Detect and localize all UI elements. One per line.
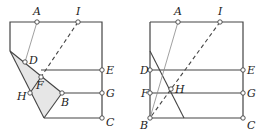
- point-e-marker: [100, 68, 104, 72]
- point-g-label: G: [247, 87, 256, 100]
- point-b-label: B: [139, 119, 148, 132]
- point-e-label: E: [105, 64, 114, 77]
- point-i-marker: [218, 20, 222, 24]
- point-a-label: A: [32, 5, 41, 18]
- point-h-label: H: [16, 90, 27, 103]
- point-a-label: A: [173, 5, 182, 18]
- point-c-label: C: [106, 116, 115, 129]
- point-g-marker: [100, 91, 104, 95]
- point-b-marker: [148, 116, 152, 120]
- point-b-label: B: [60, 96, 69, 109]
- point-d-label: D: [28, 54, 38, 67]
- left-figure-folded: AIDEFHBGC: [10, 5, 115, 129]
- point-i-marker: [76, 20, 80, 24]
- point-f-label: F: [140, 87, 149, 100]
- point-i-label: I: [217, 5, 223, 18]
- dashed-crease-line: [41, 22, 78, 77]
- point-b-marker: [60, 91, 64, 95]
- point-h-label: H: [174, 83, 185, 96]
- point-i-label: I: [75, 5, 81, 18]
- point-e-label: E: [246, 64, 255, 77]
- point-e-marker: [241, 68, 245, 72]
- point-f-label: F: [35, 79, 44, 92]
- point-g-label: G: [106, 87, 115, 100]
- point-d-marker: [23, 60, 27, 64]
- point-g-marker: [241, 91, 245, 95]
- geometry-diagram: AIDEFHBGC AIDEFHGBC: [0, 0, 259, 136]
- point-c-label: C: [247, 119, 256, 132]
- point-h-marker: [28, 91, 32, 95]
- point-h-marker: [169, 87, 173, 91]
- point-d-label: D: [139, 64, 149, 77]
- right-figure-unfolded: AIDEFHGBC: [139, 5, 256, 132]
- point-a-marker: [176, 20, 180, 24]
- point-c-marker: [241, 116, 245, 120]
- point-a-marker: [35, 20, 39, 24]
- point-c-marker: [100, 116, 104, 120]
